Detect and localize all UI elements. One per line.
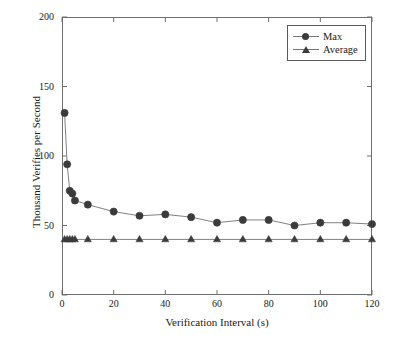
y-tick-text: 200 (39, 11, 54, 22)
chart-legend: Max Average (287, 25, 366, 61)
x-tick-text: 60 (212, 298, 222, 309)
circle-marker-icon (293, 31, 319, 42)
x-tick-label: 120 (352, 298, 392, 309)
x-tick-text: 120 (365, 298, 380, 309)
x-tick-text: 40 (160, 298, 170, 309)
y-tick-label: 150 (0, 81, 54, 92)
x-tick-label: 0 (42, 298, 82, 309)
legend-label: Average (323, 44, 358, 55)
x-tick-label: 100 (300, 298, 340, 309)
x-tick-label: 60 (197, 298, 237, 309)
x-tick-label: 80 (249, 298, 289, 309)
legend-label: Max (323, 31, 342, 42)
x-tick-text: 20 (109, 298, 119, 309)
y-axis-title: Thousand Verifies per Second (30, 42, 42, 282)
chart-figure: 0 50 100 150 200 0 20 40 60 80 100 120 T… (0, 0, 394, 341)
x-axis-title: Verification Interval (s) (62, 316, 372, 328)
x-tick-label: 40 (145, 298, 185, 309)
x-tick-text: 100 (313, 298, 328, 309)
triangle-marker-icon (293, 44, 319, 55)
x-tick-label: 20 (94, 298, 134, 309)
legend-item-average[interactable]: Average (293, 43, 358, 56)
y-tick-label: 50 (0, 220, 54, 231)
y-tick-text: 50 (44, 220, 54, 231)
y-tick-label: 100 (0, 150, 54, 161)
legend-item-max[interactable]: Max (293, 30, 358, 43)
y-tick-label: 200 (0, 11, 54, 22)
x-tick-text: 80 (264, 298, 274, 309)
x-tick-text: 0 (60, 298, 65, 309)
